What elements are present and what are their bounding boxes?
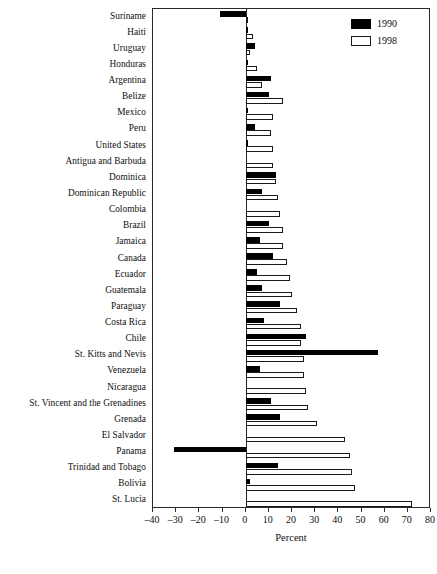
x-axis-tick: [291, 508, 292, 512]
bar-1998: [246, 50, 251, 56]
bar-1998: [246, 501, 413, 507]
category-label: St. Lucia: [0, 494, 146, 504]
category-label: Argentina: [0, 75, 146, 85]
bar-1998: [246, 388, 306, 394]
bar-1990: [246, 172, 276, 178]
bar-1998: [246, 437, 346, 443]
category-label: Peru: [0, 123, 146, 133]
category-label: Antigua and Barbuda: [0, 156, 146, 166]
bar-1998: [246, 163, 274, 169]
bar-1998: [246, 308, 297, 314]
bar-1990: [246, 92, 269, 98]
category-label: Panama: [0, 446, 146, 456]
category-label: Colombia: [0, 204, 146, 214]
category-label: Dominica: [0, 172, 146, 182]
bar-1990: [246, 43, 255, 49]
bar-1998: [246, 98, 283, 104]
bar-1990: [246, 253, 274, 259]
x-axis-tick: [314, 508, 315, 512]
category-label: Venezuela: [0, 365, 146, 375]
bar-1990: [246, 285, 262, 291]
bar-1998: [246, 453, 350, 459]
x-axis-tick: [384, 508, 385, 512]
bar-1998: [246, 195, 278, 201]
x-axis-tick: [337, 508, 338, 512]
bar-1990: [246, 479, 251, 485]
bar-1990: [246, 237, 260, 243]
category-label: Belize: [0, 91, 146, 101]
bar-1998: [246, 340, 302, 346]
x-axis-tick: [175, 508, 176, 512]
bar-1998: [246, 485, 355, 491]
legend-label-1998: 1998: [377, 36, 397, 46]
category-label: Haiti: [0, 27, 146, 37]
bar-1998: [246, 324, 302, 330]
bar-1998: [246, 292, 292, 298]
bar-1998: [246, 34, 253, 40]
x-axis-tick-label: 80: [415, 514, 437, 525]
x-axis-title: Percent: [152, 532, 430, 543]
bar-1990: [246, 221, 269, 227]
category-label: Trinidad and Tobago: [0, 462, 146, 472]
bar-1998: [246, 275, 290, 281]
category-label: Chile: [0, 333, 146, 343]
bar-1998: [246, 114, 274, 120]
bar-1990: [246, 27, 248, 33]
category-label: Brazil: [0, 220, 146, 230]
bar-1998: [246, 243, 283, 249]
category-label: United States: [0, 140, 146, 150]
bar-1990: [246, 398, 271, 404]
bar-1990: [246, 350, 378, 356]
bar-1990: [220, 11, 245, 17]
category-label-column: SurinameHaitiUruguayHondurasArgentinaBel…: [0, 8, 146, 508]
bar-1998: [246, 227, 283, 233]
bar-1990: [246, 189, 262, 195]
bar-1990: [246, 108, 248, 114]
legend-entry-1998: 1998: [351, 33, 421, 48]
x-axis-tick: [407, 508, 408, 512]
category-label: Canada: [0, 253, 146, 263]
x-axis-tick: [245, 508, 246, 512]
x-axis-tick: [268, 508, 269, 512]
category-label: Bolivia: [0, 478, 146, 488]
category-label: Honduras: [0, 59, 146, 69]
category-label: Jamaica: [0, 236, 146, 246]
category-label: Mexico: [0, 107, 146, 117]
x-axis-tick: [361, 508, 362, 512]
category-label: Suriname: [0, 11, 146, 21]
category-label: El Salvador: [0, 430, 146, 440]
bar-1990: [246, 301, 281, 307]
bar-1998: [246, 179, 276, 185]
x-axis-tick: [198, 508, 199, 512]
x-axis-tick: [222, 508, 223, 512]
bar-1990: [246, 334, 306, 340]
category-label: Uruguay: [0, 43, 146, 53]
category-label: Ecuador: [0, 269, 146, 279]
bar-1990: [246, 463, 278, 469]
bar-1990: [246, 318, 265, 324]
category-label: Guatemala: [0, 285, 146, 295]
bar-1998: [246, 66, 258, 72]
bar-1998: [246, 405, 309, 411]
bar-1998: [246, 17, 248, 23]
legend-entry-1990: 1990: [351, 16, 421, 31]
horizontal-bar-chart: SurinameHaitiUruguayHondurasArgentinaBel…: [0, 0, 437, 574]
bar-1998: [246, 130, 271, 136]
bar-1998: [246, 421, 318, 427]
bar-1990: [246, 124, 255, 130]
category-label: Grenada: [0, 414, 146, 424]
bar-1998: [246, 259, 288, 265]
legend-swatch-1998-icon: [351, 36, 371, 46]
bar-1990: [246, 366, 260, 372]
bar-1998: [246, 146, 274, 152]
plot-area: 1990 1998: [152, 8, 430, 508]
category-label: Costa Rica: [0, 317, 146, 327]
bar-1998: [246, 469, 353, 475]
bar-1998: [246, 211, 281, 217]
bar-1990: [246, 414, 281, 420]
x-axis-tick: [430, 508, 431, 512]
chart-legend: 1990 1998: [347, 13, 425, 53]
plot-inner: [153, 9, 429, 507]
bar-1990: [246, 140, 248, 146]
bar-1998: [246, 372, 304, 378]
